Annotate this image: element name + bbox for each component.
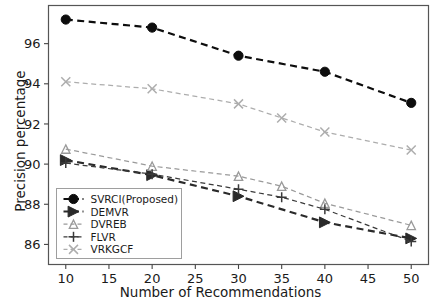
x-axis-label: Number of Recommendations — [0, 284, 441, 300]
chart-plot-area: 101520253035404550868890929496SVRCI(Prop… — [0, 0, 441, 304]
legend-label: VRKGCF — [91, 243, 134, 255]
y-axis-label: Precision percentage — [12, 31, 28, 251]
chart-legend: SVRCI(Proposed)DEMVRDVREBFLVRVRKGCF — [57, 189, 182, 259]
precision-line-chart: 101520253035404550868890929496SVRCI(Prop… — [0, 0, 441, 304]
legend-item[interactable]: DVREB — [64, 218, 127, 230]
legend-label: FLVR — [91, 231, 116, 243]
legend-label: DEMVR — [91, 206, 129, 218]
legend-label: DVREB — [91, 218, 127, 230]
legend-label: SVRCI(Proposed) — [91, 193, 179, 205]
